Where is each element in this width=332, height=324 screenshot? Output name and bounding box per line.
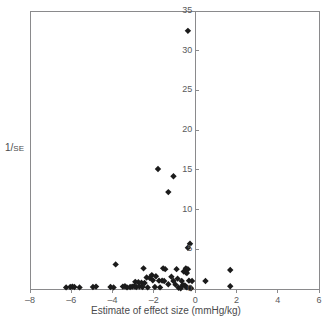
data-point <box>170 173 176 179</box>
data-point <box>157 284 163 290</box>
y-tick-label: 25 <box>177 84 192 94</box>
data-point <box>227 283 233 289</box>
x-tick-label: –6 <box>66 295 76 305</box>
y-tick-label: 15 <box>177 164 192 174</box>
x-tick-label: –2 <box>149 295 159 305</box>
x-tick-label: 6 <box>316 295 321 305</box>
data-point <box>155 166 161 172</box>
y-tick-label: 20 <box>177 124 192 134</box>
data-point <box>173 266 179 272</box>
x-axis-title: Estimate of effect size (mmHg/kg) <box>0 305 332 316</box>
data-point <box>165 189 171 195</box>
y-axis-title: 1/SE <box>5 142 24 153</box>
x-tick-label: –8 <box>25 295 35 305</box>
data-point <box>76 284 82 290</box>
x-tick-label: 0 <box>193 295 198 305</box>
y-axis-title-unit: SE <box>13 144 24 153</box>
data-point-group <box>63 28 234 292</box>
y-tick-label: 5 <box>177 243 192 253</box>
axis-tick-marks <box>30 11 319 293</box>
data-point <box>140 265 146 271</box>
y-tick-label: 35 <box>177 5 192 15</box>
data-point <box>202 278 208 284</box>
plot-frame <box>30 11 319 289</box>
y-tick-label: 30 <box>177 45 192 55</box>
funnel-plot-figure: –8–6–4–2024605101520253035 1/SE Estimate… <box>0 0 332 324</box>
y-tick-label: 10 <box>177 204 192 214</box>
x-tick-label: –4 <box>108 295 118 305</box>
x-tick-label: 2 <box>234 295 239 305</box>
x-tick-label: 4 <box>275 295 280 305</box>
y-tick-label: 0 <box>177 283 192 293</box>
data-point <box>227 267 233 273</box>
data-point <box>112 261 118 267</box>
data-point <box>185 28 191 34</box>
scatter-plot-canvas <box>0 0 332 324</box>
